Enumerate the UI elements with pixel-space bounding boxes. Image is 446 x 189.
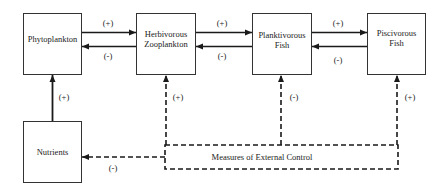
label-zoo-to-plank: (+) xyxy=(217,18,228,28)
piscivorous-fish-label: Fish xyxy=(389,38,404,48)
phytoplankton-label: Phytoplankton xyxy=(28,34,78,44)
label-control-to-pisc: (+) xyxy=(405,92,416,102)
label-pisc-to-plank: (-) xyxy=(334,55,343,65)
herbivorous-label: Herbivorous xyxy=(145,29,188,39)
nutrients-label: Nutrients xyxy=(37,147,69,157)
external-control-label: Measures of External Control xyxy=(212,152,313,162)
label-control-to-plank: (-) xyxy=(290,92,299,102)
label-control-to-zoo: (+) xyxy=(173,92,184,102)
planktivorous-label: Planktivorous xyxy=(258,30,305,40)
planktivorous-fish-label: Fish xyxy=(275,40,290,50)
phytoplankton-box xyxy=(24,14,82,75)
label-zoo-to-phyto: (-) xyxy=(104,51,113,61)
zooplankton-label: Zooplankton xyxy=(144,39,188,49)
label-plank-to-zoo: (-) xyxy=(218,51,227,61)
label-control-to-nutrients: (-) xyxy=(109,163,118,173)
piscivorous-label: Piscivorous xyxy=(377,28,417,38)
label-plank-to-pisc: (+) xyxy=(333,18,344,28)
label-phyto-to-zoo: (+) xyxy=(103,18,114,28)
food-web-diagram: Phytoplankton Herbivorous Zooplankton Pl… xyxy=(0,0,446,189)
label-nutrients-to-phyto: (+) xyxy=(59,92,70,102)
